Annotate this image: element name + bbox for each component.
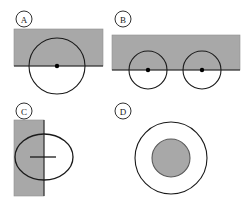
panel-d-label: D	[120, 107, 127, 117]
panel-b-center-dot-left	[146, 68, 150, 72]
figure-canvas: A B C D	[0, 0, 251, 204]
panel-b: B	[112, 11, 240, 89]
figure-container: A B C D	[0, 0, 251, 204]
panel-c: C	[14, 103, 73, 196]
panel-a-shaded-rect	[14, 29, 103, 66]
panel-a-center-dot	[55, 64, 59, 68]
panel-c-shaded-rect	[14, 120, 44, 196]
panel-b-label: B	[120, 15, 126, 25]
panel-d: D	[115, 103, 207, 194]
panel-d-inner-shaded-disc	[152, 139, 190, 177]
panel-b-center-dot-right	[200, 68, 204, 72]
panel-a-label: A	[21, 15, 28, 25]
panel-c-label: C	[21, 107, 27, 117]
panel-a: A	[14, 11, 103, 94]
